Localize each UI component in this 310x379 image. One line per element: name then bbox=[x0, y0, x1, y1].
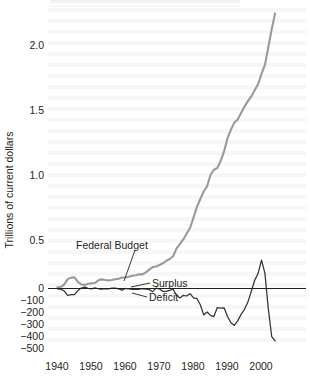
x-tick-1960: 1960 bbox=[113, 360, 137, 372]
y-tick-neg200: −200 bbox=[20, 306, 44, 318]
x-tick-1980: 1980 bbox=[181, 360, 205, 372]
y-tick-1.5: 1.5 bbox=[29, 104, 44, 116]
deficit-label: Deficit bbox=[149, 291, 178, 303]
y-tick-0.5: 0.5 bbox=[29, 234, 44, 246]
x-tick-1990: 1990 bbox=[215, 360, 239, 372]
y-tick-0: 0 bbox=[38, 282, 44, 294]
federal-budget-chart: Trillions of current dollars 2.0 1.5 1.0… bbox=[0, 0, 310, 379]
y-tick-neg500: −500 bbox=[20, 342, 44, 354]
x-tick-2000: 2000 bbox=[249, 360, 273, 372]
y-tick-2.0: 2.0 bbox=[29, 39, 44, 51]
deficit-leader-line bbox=[132, 293, 147, 297]
x-tick-1940: 1940 bbox=[45, 360, 69, 372]
y-tick-neg400: −400 bbox=[20, 330, 44, 342]
x-tick-1970: 1970 bbox=[147, 360, 171, 372]
y-tick-neg100: −100 bbox=[20, 294, 44, 306]
x-tick-1950: 1950 bbox=[79, 360, 103, 372]
surplus-label: Surplus bbox=[152, 277, 188, 289]
y-axis-title: Trillions of current dollars bbox=[3, 132, 15, 249]
surplus-leader-line bbox=[131, 283, 150, 287]
federal-budget-label: Federal Budget bbox=[76, 239, 148, 251]
y-tick-neg300: −300 bbox=[20, 318, 44, 330]
y-tick-1.0: 1.0 bbox=[29, 169, 44, 181]
figure-container: Trillions of current dollars 2.0 1.5 1.0… bbox=[0, 0, 310, 379]
